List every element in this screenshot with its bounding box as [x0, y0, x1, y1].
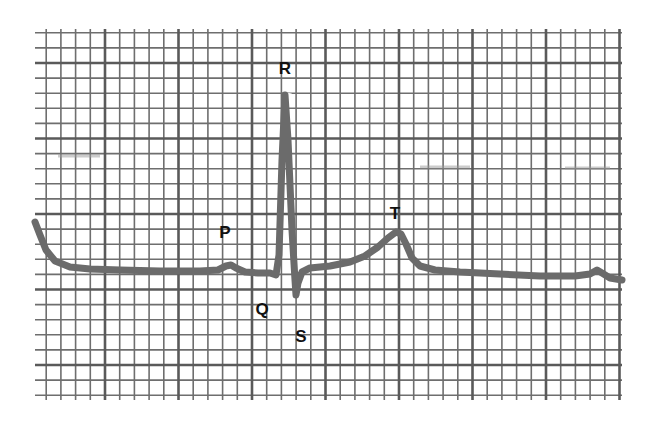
- ecg-grid-paper: P Q R S T: [0, 0, 660, 425]
- ecg-trace: [35, 95, 622, 295]
- label-s: S: [295, 327, 306, 346]
- paper-smudges: [58, 156, 610, 168]
- label-q: Q: [255, 300, 268, 319]
- ecg-figure: P Q R S T: [0, 0, 660, 425]
- label-t: T: [390, 204, 401, 223]
- label-r: R: [279, 59, 291, 78]
- grid-major-lines: [35, 29, 622, 400]
- label-p: P: [219, 223, 230, 242]
